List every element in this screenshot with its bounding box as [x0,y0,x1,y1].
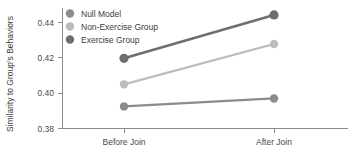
chart-canvas: 0.44 0.42 0.40 0.38 Before Join After Jo… [0,0,355,153]
legend-label-exercise-group: Exercise Group [81,35,140,45]
line-chart: 0.44 0.42 0.40 0.38 Before Join After Jo… [0,0,355,153]
series-non-exercise-group [120,40,278,89]
data-point-non-exercise-group-before-join [120,80,128,88]
x-tick-labels: Before Join After Join [103,137,293,147]
legend-item-null-model[interactable]: Null Model [66,9,121,19]
x-tick-label-after-join: After Join [256,137,292,147]
y-tick-label-042: 0.42 [37,53,54,63]
legend-label-non-exercise-group: Non-Exercise Group [81,22,158,32]
data-point-null-model-after-join [270,94,278,102]
data-point-null-model-before-join [120,102,128,110]
y-tick-labels: 0.44 0.42 0.40 0.38 [37,18,54,134]
y-tick-label-040: 0.40 [37,88,54,98]
x-tick-label-before-join: Before Join [103,137,146,147]
series-null-model [120,94,278,110]
legend-marker-non-exercise-group-icon [66,22,74,30]
legend-marker-null-model-icon [66,9,74,17]
data-point-exercise-group-before-join [119,54,128,63]
legend: Null Model Non-Exercise Group Exercise G… [66,9,158,45]
data-point-non-exercise-group-after-join [270,40,278,48]
y-tick-marks [58,23,63,129]
y-axis-title: Similarity to Group's Behaviors [5,16,15,132]
legend-item-exercise-group[interactable]: Exercise Group [66,35,140,45]
series-exercise-group [119,10,278,63]
series-null-model-line [124,98,274,106]
data-point-exercise-group-after-join [269,10,278,19]
y-tick-label-038: 0.38 [37,124,54,134]
x-tick-marks [124,129,274,134]
series-non-exercise-group-line [124,44,274,84]
legend-item-non-exercise-group[interactable]: Non-Exercise Group [66,22,158,32]
legend-label-null-model: Null Model [81,9,121,19]
legend-marker-exercise-group-icon [66,35,74,43]
y-tick-label-044: 0.44 [37,18,54,28]
